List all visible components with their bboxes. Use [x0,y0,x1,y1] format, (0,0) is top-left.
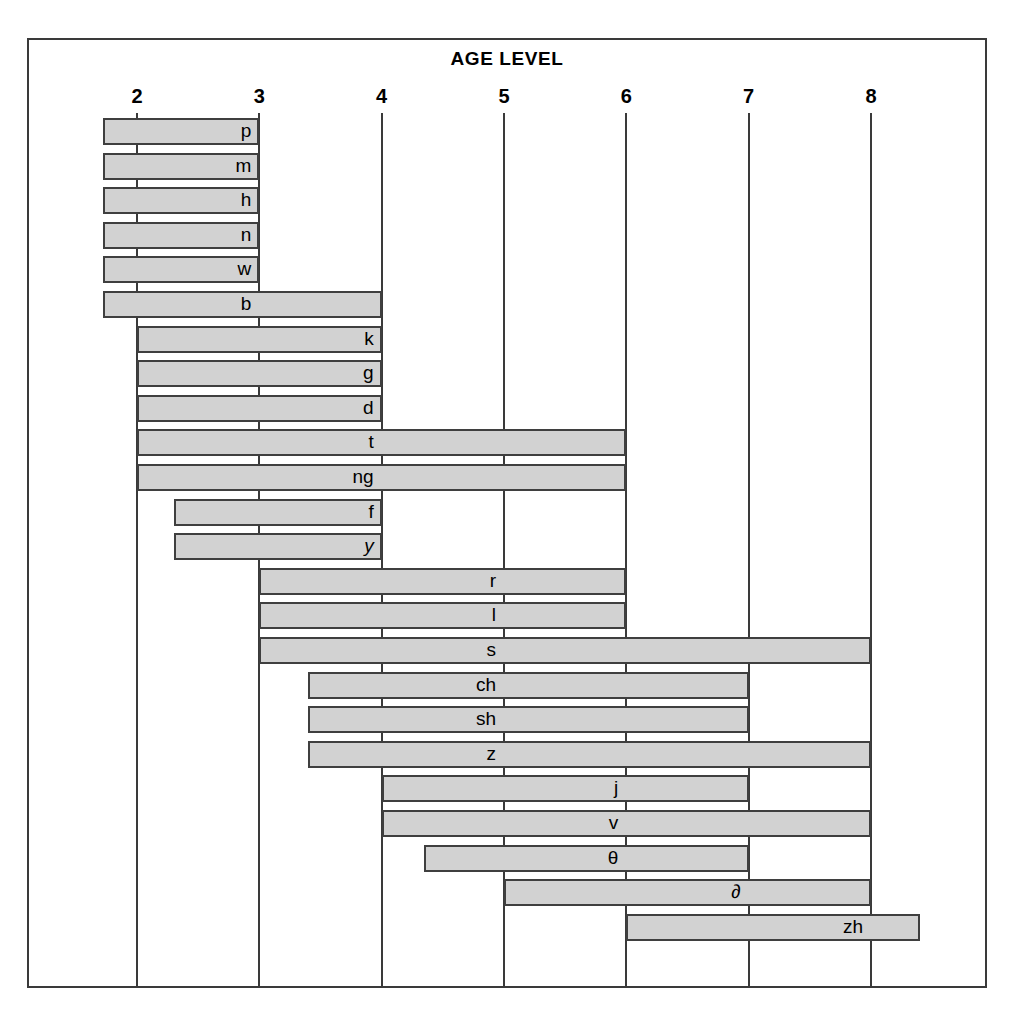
phoneme-age-chart: AGE LEVEL 2345678 pmhnwbkgdtngfyrlschshz… [0,0,1014,1014]
chart-frame [27,38,987,988]
chart-title: AGE LEVEL [0,48,1014,70]
